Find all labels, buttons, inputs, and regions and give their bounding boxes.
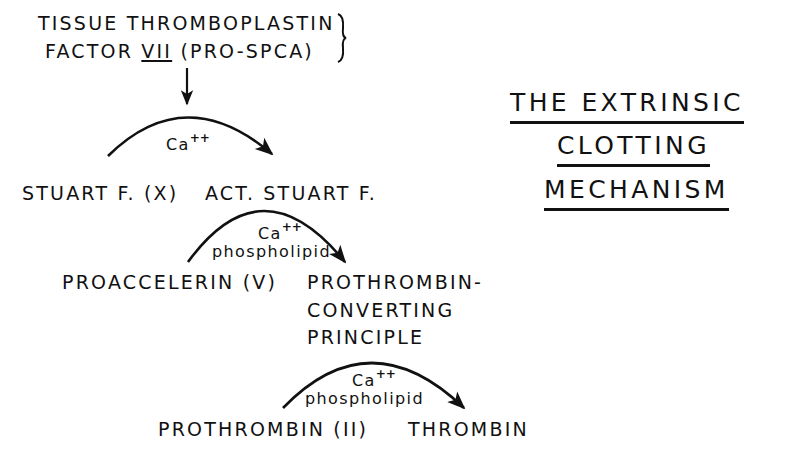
factor-prefix: FACTOR	[45, 40, 141, 62]
calcium-label: Ca	[166, 135, 190, 154]
thrombin-label: THROMBIN	[408, 420, 529, 439]
calcium-charge: ++	[376, 367, 396, 381]
page-title-line1: THE EXTRINSIC	[510, 90, 744, 124]
factor-suffix: (PRO-SPCA)	[172, 40, 314, 62]
calcium-charge: ++	[282, 220, 302, 234]
calcium-charge: ++	[190, 131, 210, 145]
step2-phospholipid: phospholipid	[212, 244, 331, 260]
activated-stuart-factor-label: ACT. STUART F.	[205, 184, 377, 203]
page-title-line2: CLOTTING	[557, 133, 710, 167]
brace	[338, 14, 346, 62]
page-title-line3: MECHANISM	[544, 177, 729, 211]
tissue-thromboplastin-label: TISSUE THROMBOPLASTIN	[38, 14, 335, 33]
step3-phospholipid: phospholipid	[305, 391, 424, 407]
step3-cofactor: Ca++	[352, 368, 396, 389]
prothrombin-converting-principle-line1: PROTHROMBIN-	[307, 273, 483, 292]
step2-cofactor: Ca++	[258, 221, 302, 242]
factor-numeral: VII	[141, 40, 172, 62]
calcium-label: Ca	[258, 224, 282, 243]
factor-vii-label: FACTOR VII (PRO-SPCA)	[45, 42, 314, 61]
step1-cofactor: Ca++	[166, 132, 210, 153]
prothrombin-label: PROTHROMBIN (II)	[158, 420, 368, 439]
prothrombin-converting-principle-line3: PRINCIPLE	[307, 328, 424, 347]
stuart-factor-label: STUART F. (X)	[22, 184, 178, 203]
proaccelerin-label: PROACCELERIN (V)	[62, 273, 277, 292]
calcium-label: Ca	[352, 371, 376, 390]
prothrombin-converting-principle-line2: CONVERTING	[307, 301, 454, 320]
